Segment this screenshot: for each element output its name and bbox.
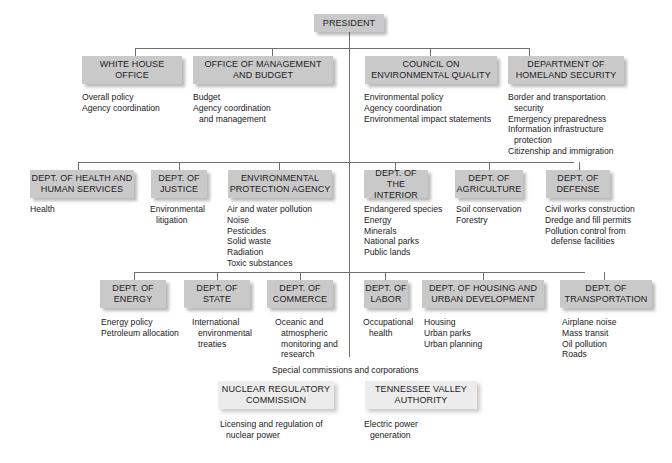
row1-drop-1 [135,48,136,56]
transportation-box: DEPT. OFTRANSPORTATION [560,280,652,308]
dhs-duties: Border and transportation security Emerg… [508,92,614,157]
duty-item: Civil works construction [545,204,635,215]
row1-drop-3 [430,48,431,56]
hhs-duties: Health [30,204,55,215]
row3-drop-4 [385,272,386,280]
row3-drop-5 [483,272,484,280]
state-box: DEPT. OFSTATE [184,280,250,308]
box-label-line: COMMERCE [273,294,327,305]
white-house-office-duties: Overall policy Agency coordination [82,92,160,114]
box-label-line: HUMAN SERVICES [32,184,133,195]
duty-item: Solid waste [227,236,312,247]
box-label-line: DEPT. OF [365,283,406,294]
duty-item: Overall policy [82,92,160,103]
energy-box: DEPT. OFENERGY [100,280,166,308]
duty-item: Petroleum allocation [101,328,179,339]
duty-item: defense facilities [545,236,635,247]
row2-bus [78,162,574,163]
duty-item: Noise [227,215,312,226]
box-label-line: ENERGY [112,294,153,305]
box-label-line: AND BUDGET [204,70,321,81]
row3-drop-6 [604,272,605,280]
special-commissions-caption: Special commissions and corporations [272,365,419,375]
box-label-line: NUCLEAR REGULATORY [222,384,330,395]
defense-duties: Civil works construction Dredge and fill… [545,204,635,247]
duty-item: atmospheric [275,328,338,339]
row2-drop-5 [489,162,490,170]
row2-drop-1 [78,162,79,170]
box-label-line: ENVIRONMENTAL [230,173,331,184]
box-label-line: DEPT. OF [565,283,648,294]
omb-duties: Budget Agency coordination and managemen… [193,92,271,124]
duty-item: Budget [193,92,271,103]
duty-item: Agency coordination [82,103,160,114]
nrc-box: NUCLEAR REGULATORYCOMMISSION [218,381,334,409]
duty-item: Oceanic and [275,317,338,328]
row2-drop-3 [279,162,280,170]
justice-duties: Environmental litigation [150,204,205,226]
row1-drop-2 [272,48,273,56]
duty-item: Environmental impact statements [364,114,491,125]
duty-item: Emergency preparedness [508,114,614,125]
president-box: PRESIDENT [314,14,384,32]
ceq-duties: Environmental policy Agency coordination… [364,92,491,124]
box-label-line: THE INTERIOR [364,179,428,201]
row3-drop-3 [300,272,301,280]
duty-item: Pollution control from [545,226,635,237]
commerce-duties: Oceanic and atmospheric monitoring and r… [275,317,338,360]
box-label-line: COUNCIL ON [371,59,491,70]
box-label-line: STATE [196,294,237,305]
box-label-line: AUTHORITY [375,395,467,406]
energy-duties: Energy policy Petroleum allocation [101,317,179,339]
duty-item: Electric power [364,419,418,430]
duty-item: Energy policy [101,317,179,328]
defense-box: DEPT. OFDEFENSE [546,170,610,198]
box-label-line: TRANSPORTATION [565,294,648,305]
duty-item: Agency coordination [364,103,491,114]
box-label-line: DEPT. OF [364,168,428,179]
row2-drop-6 [579,162,580,170]
duty-item: Public lands [364,247,442,258]
duty-item: Oil pollution [562,339,616,350]
row1-bus [135,48,530,49]
duty-item: litigation [150,215,205,226]
duty-item: Health [30,204,55,215]
duty-item: Occupational [363,317,413,328]
duty-item: Roads [562,349,616,360]
duty-item: Endangered species [364,204,442,215]
justice-box: DEPT. OFJUSTICE [151,170,207,198]
box-label-line: JUSTICE [158,184,199,195]
omb-box: OFFICE OF MANAGEMENTAND BUDGET [193,56,333,84]
duty-item: Housing [424,317,482,328]
box-label-line: DEPT. OF [556,173,599,184]
box-label-line: HOMELAND SECURITY [516,70,617,81]
duty-item: Environmental policy [364,92,491,103]
box-label-line: AGRICULTURE [457,184,522,195]
dhs-box: DEPARTMENT OFHOMELAND SECURITY [508,56,624,84]
box-label-line: COMMISSION [222,395,330,406]
box-label-line: URBAN DEVELOPMENT [429,294,537,305]
state-duties: International environmental treaties [192,317,252,349]
box-label-line: DEPT. OF [273,283,327,294]
hud-box: DEPT. OF HOUSING ANDURBAN DEVELOPMENT [422,280,544,308]
duty-item: Toxic substances [227,258,312,269]
duty-item: monitoring and [275,339,338,350]
duty-item: Airplane noise [562,317,616,328]
duty-item: National parks [364,236,442,247]
tva-box: TENNESSEE VALLEYAUTHORITY [365,381,477,409]
epa-box: ENVIRONMENTALPROTECTION AGENCY [228,170,332,198]
hhs-box: DEPT. OF HEALTH ANDHUMAN SERVICES [30,170,134,198]
box-label-line: OFFICE OF MANAGEMENT [204,59,321,70]
duty-item: Urban parks [424,328,482,339]
agriculture-duties: Soil conservation Forestry [456,204,521,226]
row1-drop-4 [529,48,530,56]
ceq-box: COUNCIL ONENVIRONMENTAL QUALITY [365,56,497,84]
box-label-line: OFFICE [100,70,165,81]
duty-item: Border and transportation [508,92,614,103]
box-label-line: DEPT. OF [457,173,522,184]
nrc-duties: Licensing and regulation of nuclear powe… [220,419,323,441]
duty-item: protection [508,135,614,146]
box-label-line: DEPT. OF [196,283,237,294]
duty-item: Radiation [227,247,312,258]
duty-item: International [192,317,252,328]
